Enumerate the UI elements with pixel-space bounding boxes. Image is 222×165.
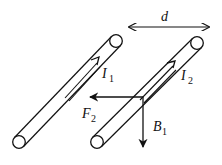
current-arrow-2 xyxy=(140,61,176,103)
current1-label: I 1 xyxy=(101,66,114,84)
distance-label: d xyxy=(161,9,169,24)
svg-text:1: 1 xyxy=(162,126,167,137)
svg-text:2: 2 xyxy=(188,75,193,86)
current2-label: I 2 xyxy=(180,68,193,86)
field-label: B 1 xyxy=(153,119,167,137)
wire-2 xyxy=(91,37,204,149)
svg-text:I: I xyxy=(180,68,187,83)
wire-1 xyxy=(13,35,123,149)
svg-text:F: F xyxy=(81,106,91,121)
svg-text:I: I xyxy=(101,66,108,81)
svg-text:2: 2 xyxy=(91,113,96,124)
svg-text:B: B xyxy=(153,119,162,134)
parallel-wires-diagram: d I 1 I 2 F 2 B 1 xyxy=(0,0,222,165)
svg-text:1: 1 xyxy=(109,73,114,84)
force-label: F 2 xyxy=(81,106,96,124)
